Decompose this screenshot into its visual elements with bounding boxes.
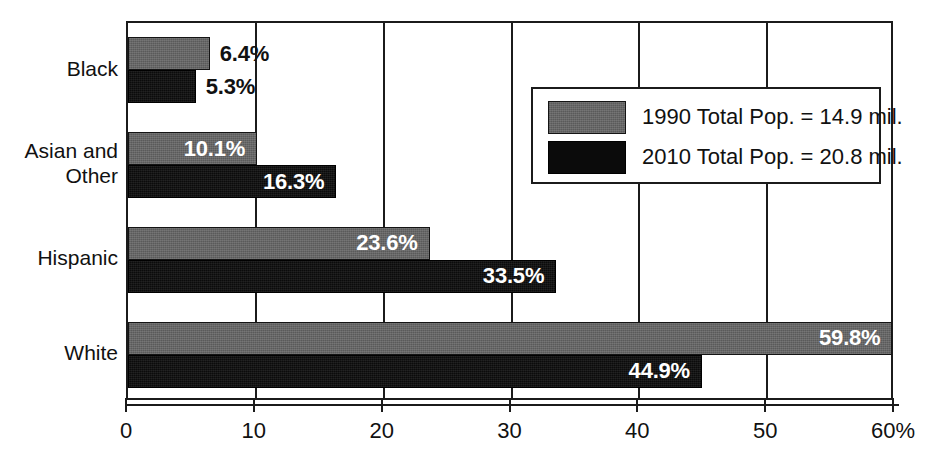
plot-area: 6.4%5.3%10.1%16.3%23.6%33.5%59.8%44.9% — [126, 21, 893, 400]
bar — [128, 322, 892, 355]
legend-item: 1990 Total Pop. = 14.9 mil. — [548, 100, 903, 134]
x-tick-label: 0 — [120, 418, 132, 444]
bar — [128, 355, 702, 388]
x-tick-label: 10 — [242, 418, 266, 444]
legend-label: 2010 Total Pop. = 20.8 mil. — [642, 144, 903, 170]
category-label: Asian and Other — [0, 138, 118, 188]
x-tick-50 — [764, 398, 766, 412]
bar-chart: BlackAsian and OtherHispanicWhite 6.4%5.… — [0, 0, 940, 465]
x-tick-label: 30 — [497, 418, 521, 444]
category-label: White — [0, 340, 118, 365]
x-tick-label: 50 — [753, 418, 777, 444]
category-label: Hispanic — [0, 245, 118, 270]
value-label: 59.8% — [819, 327, 880, 349]
value-label: 16.3% — [263, 171, 324, 193]
value-label: 6.4% — [220, 43, 269, 65]
legend: 1990 Total Pop. = 14.9 mil.2010 Total Po… — [531, 87, 881, 184]
category-label: Black — [0, 56, 118, 81]
x-tick-60 — [892, 398, 894, 412]
x-axis-line — [126, 404, 899, 406]
category-axis-labels: BlackAsian and OtherHispanicWhite — [0, 21, 118, 400]
value-label: 23.6% — [356, 232, 417, 254]
legend-item: 2010 Total Pop. = 20.8 mil. — [548, 140, 903, 174]
bar — [128, 37, 210, 70]
legend-swatch — [548, 141, 626, 174]
value-label: 5.3% — [206, 76, 255, 98]
x-tick-20 — [381, 398, 383, 412]
value-label: 33.5% — [483, 265, 544, 287]
bar — [128, 70, 196, 103]
x-tick-30 — [509, 398, 511, 412]
legend-label: 1990 Total Pop. = 14.9 mil. — [642, 104, 903, 130]
x-tick-label: 60% — [871, 418, 915, 444]
x-tick-0 — [125, 398, 127, 412]
x-tick-10 — [253, 398, 255, 412]
x-tick-40 — [636, 398, 638, 412]
value-label: 10.1% — [184, 138, 245, 160]
x-tick-label: 40 — [625, 418, 649, 444]
x-tick-label: 20 — [369, 418, 393, 444]
legend-swatch — [548, 101, 626, 134]
value-label: 44.9% — [629, 360, 690, 382]
